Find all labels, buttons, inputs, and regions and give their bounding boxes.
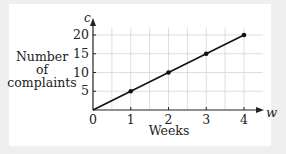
data-series <box>93 33 246 110</box>
line-chart: w c 012345101520 Weeks <box>0 0 286 154</box>
data-point-marker <box>166 70 171 75</box>
x-axis-label: Weeks <box>149 123 190 138</box>
data-point-marker <box>128 89 133 94</box>
y-tick-label: 5 <box>81 83 89 98</box>
y-axis-variable: c <box>84 11 91 25</box>
data-point-marker <box>242 33 247 38</box>
y-axis-arrow-icon <box>90 18 96 26</box>
x-tick-label: 4 <box>240 112 248 127</box>
x-axis-arrow-icon <box>256 107 264 113</box>
y-tick-label: 10 <box>73 65 89 80</box>
x-tick-label: 3 <box>202 112 210 127</box>
y-tick-label: 15 <box>73 46 89 61</box>
x-axis-variable: w <box>266 105 277 120</box>
y-tick-label: 20 <box>73 27 89 42</box>
axes: w c <box>84 11 277 120</box>
data-point-marker <box>204 51 209 56</box>
x-tick-label: 0 <box>89 112 97 127</box>
x-tick-label: 1 <box>127 112 135 127</box>
